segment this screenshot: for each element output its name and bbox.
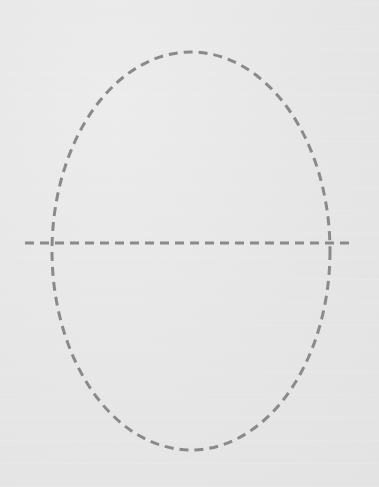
dashed-ellipse: [52, 52, 330, 450]
diagram-canvas: [0, 0, 379, 487]
diagram-svg: [0, 0, 379, 487]
